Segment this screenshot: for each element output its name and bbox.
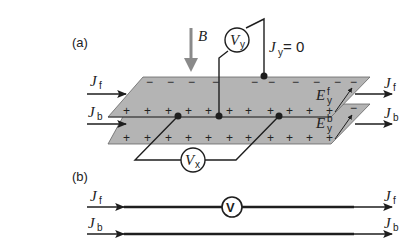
svg-text:+: + <box>286 131 293 145</box>
svg-text:−: − <box>212 75 219 89</box>
field-b-label: B <box>198 28 207 44</box>
svg-text:−: − <box>146 75 153 89</box>
svg-text:x: x <box>195 159 200 170</box>
back-current-out-label: J <box>384 105 392 121</box>
svg-text:+: + <box>306 104 313 118</box>
magnetic-field-arrow <box>184 28 198 72</box>
svg-text:+: + <box>205 131 212 145</box>
svg-text:f: f <box>99 195 102 206</box>
svg-text:+: + <box>123 104 130 118</box>
b-front-in-label: J <box>90 188 98 204</box>
svg-text:J: J <box>269 39 277 55</box>
svg-text:−: − <box>188 75 195 89</box>
front-current-out-label: J <box>384 75 392 91</box>
voltmeter-label: V <box>226 200 235 215</box>
svg-text:b: b <box>97 222 103 233</box>
svg-text:+: + <box>144 104 151 118</box>
diagram-canvas: (a) B − − − − − − − − − − − + + + + + + … <box>0 0 408 244</box>
svg-text:y: y <box>240 39 245 50</box>
svg-text:f: f <box>393 82 396 93</box>
svg-text:+: + <box>226 131 233 145</box>
svg-text:+: + <box>306 131 313 145</box>
svg-text:−: − <box>251 75 258 89</box>
svg-text:+: + <box>165 131 172 145</box>
svg-text:+: + <box>123 131 130 145</box>
back-current-in-label: J <box>88 104 96 120</box>
svg-text:b: b <box>393 222 399 233</box>
svg-text:b: b <box>393 112 399 123</box>
svg-text:−: − <box>167 75 174 89</box>
svg-text:+: + <box>185 104 192 118</box>
svg-text:y: y <box>327 95 332 106</box>
svg-text:+: + <box>165 104 172 118</box>
svg-text:−: − <box>268 75 275 89</box>
panel-a-label: (a) <box>72 35 88 50</box>
svg-text:+: + <box>245 104 252 118</box>
svg-text:+: + <box>205 104 212 118</box>
svg-text:y: y <box>327 123 332 134</box>
b-front-out-label: J <box>384 188 392 204</box>
front-current-in-label: J <box>90 73 98 89</box>
b-back-out-label: J <box>384 215 392 231</box>
field-back-label: E b y <box>315 113 333 134</box>
svg-text:f: f <box>393 195 396 206</box>
svg-text:b: b <box>97 111 103 122</box>
negative-charge-back: − <box>350 101 357 115</box>
svg-text:−: − <box>350 75 357 89</box>
svg-text:+: + <box>226 104 233 118</box>
svg-text:E: E <box>315 87 325 103</box>
svg-text:+: + <box>286 104 293 118</box>
svg-text:+: + <box>267 104 274 118</box>
svg-text:+: + <box>185 131 192 145</box>
svg-text:E: E <box>315 115 325 131</box>
svg-text:+: + <box>245 131 252 145</box>
svg-text:f: f <box>99 80 102 91</box>
svg-text:= 0: = 0 <box>283 38 304 55</box>
svg-text:−: − <box>292 75 299 89</box>
svg-text:−: − <box>334 75 341 89</box>
b-back-in-label: J <box>88 215 96 231</box>
panel-b-label: (b) <box>72 169 88 184</box>
svg-text:+: + <box>267 131 274 145</box>
current-condition-label: J y = 0 <box>269 38 304 58</box>
svg-text:+: + <box>144 131 151 145</box>
